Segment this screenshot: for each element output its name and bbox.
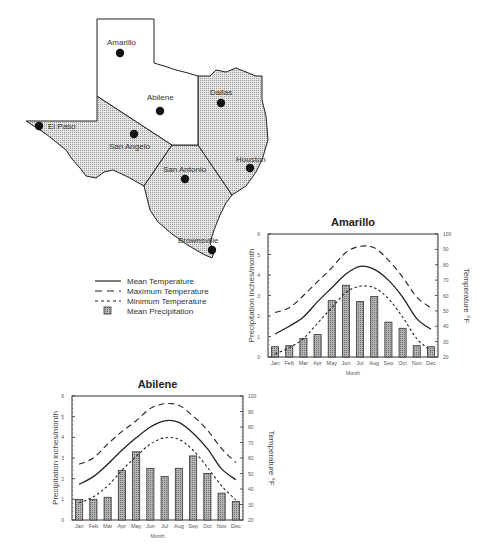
y-tick-label: 4 (61, 434, 64, 440)
city-label: Abilene (147, 93, 174, 102)
y2-axis-label: Temperature °F (462, 268, 471, 323)
y2-tick-label: 70 (248, 440, 254, 446)
precip-bar (399, 328, 406, 357)
y-tick-label: 5 (61, 414, 64, 420)
x-tick-label: Mar (299, 360, 309, 366)
x-tick-label: Oct (398, 360, 407, 366)
x-tick-label: Jun (146, 523, 155, 529)
x-tick-label: Jun (341, 360, 350, 366)
y2-tick-label: 40 (443, 323, 449, 329)
y2-tick-label: 30 (443, 339, 449, 345)
x-tick-label: May (327, 360, 338, 366)
y-tick-label: 4 (257, 272, 260, 278)
precip-bar (314, 334, 321, 357)
precip-bar (357, 302, 364, 357)
chart-title: Amarillo (331, 216, 375, 228)
line-minimum-temperature (275, 286, 431, 354)
y-axis-label: Precipitation inches/month (51, 411, 60, 505)
y-tick-label: 3 (61, 455, 64, 461)
y-tick-label: 2 (257, 313, 260, 319)
legend: Mean Temperature Maximum Temperature Min… (95, 277, 209, 316)
x-tick-label: Sep (188, 523, 198, 529)
y2-tick-label: 100 (248, 393, 257, 399)
x-tick-label: Jul (161, 523, 168, 529)
precip-bar (232, 501, 239, 520)
precip-bar (133, 452, 140, 520)
x-tick-label: Aug (174, 523, 184, 529)
x-tick-label: Aug (369, 360, 379, 366)
x-tick-label: Dec (426, 360, 436, 366)
city-label: Dallas (210, 88, 232, 97)
y2-tick-label: 60 (248, 455, 254, 461)
legend-label-precip: Mean Precipitation (127, 307, 193, 316)
y-tick-label: 3 (257, 293, 260, 299)
x-tick-label: Apr (313, 360, 322, 366)
city-label: Brownsville (178, 236, 219, 245)
y2-tick-label: 70 (443, 277, 449, 283)
y2-axis-label: Temperature °F (267, 430, 276, 485)
x-tick-label: Mar (103, 523, 113, 529)
precip-bar (104, 497, 111, 520)
x-tick-label: May (131, 523, 142, 529)
plot-frame (72, 396, 243, 520)
city-dot (35, 122, 43, 130)
y2-tick-label: 80 (443, 262, 449, 268)
precip-bar (90, 499, 97, 520)
y-tick-label: 6 (257, 231, 260, 237)
x-tick-label: Nov (217, 523, 227, 529)
x-tick-label: Jan (75, 523, 84, 529)
line-mean-temperature (275, 266, 431, 334)
city-label: San Antonio (163, 165, 207, 174)
precip-bar (272, 347, 279, 357)
city-dot (116, 49, 124, 57)
y-tick-label: 5 (257, 252, 260, 258)
x-tick-label: Oct (203, 523, 212, 529)
y2-tick-label: 80 (248, 424, 254, 430)
city-label: Houston (236, 155, 266, 164)
city-dot (246, 164, 254, 172)
city-label: San Angelo (109, 142, 150, 151)
x-axis-label: Month (151, 533, 165, 539)
chart-abilene: Abilene01234562030405060708090100Precipi… (51, 378, 276, 539)
x-tick-label: Apr (118, 523, 127, 529)
city-dot (217, 99, 225, 107)
precip-bar (371, 297, 378, 357)
city-label: Amarillo (107, 38, 136, 47)
precip-bar (413, 346, 420, 357)
legend-label-mean-temp: Mean Temperature (127, 277, 195, 286)
precip-bar (342, 285, 349, 357)
climate-figure: AmarilloAbileneDallasEl PasoSan AngeloSa… (0, 0, 484, 549)
y-tick-label: 1 (61, 496, 64, 502)
precip-bar (300, 339, 307, 357)
y2-tick-label: 50 (248, 471, 254, 477)
x-axis-label: Month (346, 370, 360, 376)
y2-tick-label: 60 (443, 293, 449, 299)
x-tick-label: Feb (285, 360, 294, 366)
y2-tick-label: 30 (248, 502, 254, 508)
precip-bar (147, 468, 154, 520)
plot-frame (268, 234, 438, 357)
x-tick-label: Dec (231, 523, 241, 529)
precip-bar (204, 474, 211, 521)
y2-tick-label: 40 (248, 486, 254, 492)
city-dot (156, 107, 164, 115)
precip-bar (328, 301, 335, 357)
line-mean-temperature (79, 420, 236, 484)
chart-title: Abilene (138, 378, 178, 390)
y-axis-label: Precipitation inches/month (247, 249, 256, 343)
x-tick-label: Sep (384, 360, 394, 366)
y2-tick-label: 100 (443, 231, 452, 237)
line-maximum-temperature (275, 246, 431, 313)
precip-bar (175, 468, 182, 520)
legend-label-max-temp: Maximum Temperature (127, 287, 209, 296)
precip-bar (161, 477, 168, 520)
city-label: El Paso (48, 122, 76, 131)
y2-tick-label: 20 (443, 354, 449, 360)
y-tick-label: 0 (257, 354, 260, 360)
legend-bar-swatch (104, 307, 111, 314)
texas-map: AmarilloAbileneDallasEl PasoSan AngeloSa… (26, 19, 268, 258)
city-dot (181, 175, 189, 183)
x-tick-label: Nov (412, 360, 422, 366)
line-minimum-temperature (79, 437, 236, 503)
y-tick-label: 1 (257, 334, 260, 340)
